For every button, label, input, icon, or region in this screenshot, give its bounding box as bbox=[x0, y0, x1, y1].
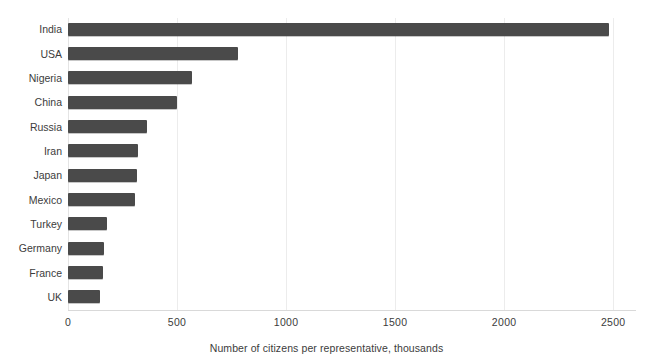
x-axis-title: Number of citizens per representative, t… bbox=[0, 342, 653, 354]
bar-china bbox=[68, 96, 177, 109]
category-label-nigeria: Nigeria bbox=[0, 73, 62, 84]
category-label-turkey: Turkey bbox=[0, 219, 62, 230]
clipped-title-remnant bbox=[8, 0, 645, 3]
bar-nigeria bbox=[68, 71, 192, 84]
bar-germany bbox=[68, 242, 104, 255]
bar-row bbox=[68, 115, 635, 139]
category-label-france: France bbox=[0, 268, 62, 279]
bar-row bbox=[68, 213, 635, 237]
x-axis-tick-labels: 05001000150020002500 bbox=[0, 316, 653, 332]
bar-turkey bbox=[68, 217, 107, 230]
category-label-uk: UK bbox=[0, 292, 62, 303]
bar-india bbox=[68, 23, 609, 36]
x-tick-2500: 2500 bbox=[601, 316, 626, 328]
category-label-mexico: Mexico bbox=[0, 195, 62, 206]
bar-france bbox=[68, 266, 103, 279]
x-tick-1500: 1500 bbox=[383, 316, 408, 328]
bar-row bbox=[68, 91, 635, 115]
x-tick-1000: 1000 bbox=[274, 316, 299, 328]
plot-area bbox=[68, 18, 635, 310]
bar-uk bbox=[68, 290, 100, 303]
bar-row bbox=[68, 188, 635, 212]
x-tick-2000: 2000 bbox=[492, 316, 517, 328]
category-label-india: India bbox=[0, 24, 62, 35]
category-label-germany: Germany bbox=[0, 243, 62, 254]
category-axis-labels: IndiaUSANigeriaChinaRussiaIranJapanMexic… bbox=[0, 18, 62, 310]
bar-rows bbox=[68, 18, 635, 310]
category-label-usa: USA bbox=[0, 49, 62, 60]
bar-russia bbox=[68, 120, 147, 133]
bar-row bbox=[68, 42, 635, 66]
bar-row bbox=[68, 237, 635, 261]
bar-row bbox=[68, 140, 635, 164]
bar-japan bbox=[68, 169, 137, 182]
bar-iran bbox=[68, 144, 138, 157]
category-label-russia: Russia bbox=[0, 122, 62, 133]
category-label-japan: Japan bbox=[0, 170, 62, 181]
bar-mexico bbox=[68, 193, 135, 206]
bar-usa bbox=[68, 47, 238, 60]
category-label-iran: Iran bbox=[0, 146, 62, 157]
bar-row bbox=[68, 18, 635, 42]
bar-row bbox=[68, 164, 635, 188]
x-tick-500: 500 bbox=[168, 316, 186, 328]
bar-row bbox=[68, 261, 635, 285]
category-label-china: China bbox=[0, 97, 62, 108]
bar-row bbox=[68, 286, 635, 310]
x-axis-line bbox=[68, 310, 636, 311]
bar-chart: IndiaUSANigeriaChinaRussiaIranJapanMexic… bbox=[0, 0, 653, 363]
bar-row bbox=[68, 67, 635, 91]
x-tick-0: 0 bbox=[65, 316, 71, 328]
